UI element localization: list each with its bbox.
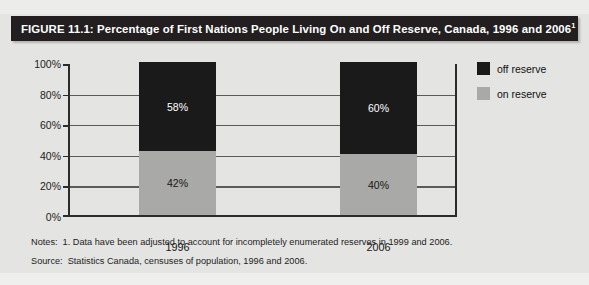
figure-container: FIGURE 11.1: Percentage of First Nations…	[0, 0, 589, 285]
figure-title-prefix: FIGURE 11.1:	[21, 23, 94, 35]
bar-segment-2006-on-reserve[interactable]: 40%	[340, 154, 417, 215]
legend-swatch-off-reserve-icon	[477, 62, 490, 75]
bar-value-label-1996-off-reserve: 58%	[167, 102, 188, 113]
y-tick-label-60: 60%	[40, 119, 61, 131]
y-tick-label-20: 20%	[40, 180, 61, 192]
y-tick-label-80: 80%	[40, 89, 61, 101]
bar-segment-2006-off-reserve[interactable]: 60%	[340, 62, 417, 154]
y-tick-label-100: 100%	[34, 58, 61, 70]
y-tick-mark-40	[63, 156, 68, 158]
y-tick-mark-0	[63, 215, 68, 217]
bar-value-label-1996-on-reserve: 42%	[167, 178, 188, 189]
chart-panel: 100% 80% 60% 40% 20% 0% 58%	[11, 44, 578, 273]
figure-source-text: Statistics Canada, censuses of populatio…	[68, 256, 308, 266]
y-tick-label-40: 40%	[40, 150, 61, 162]
y-tick-label-0: 0%	[46, 211, 61, 223]
x-axis-line	[68, 215, 457, 217]
figure-title-main: Percentage of First Nations People Livin…	[97, 23, 571, 35]
figure-notes-text: 1. Data have been adjusted to account fo…	[63, 237, 453, 247]
figure-notes: Notes:1. Data have been adjusted to acco…	[31, 237, 452, 247]
legend-item-on-reserve[interactable]: on reserve	[477, 87, 577, 100]
figure-source: Source:Statistics Canada, censuses of po…	[31, 256, 307, 266]
plot-right-border	[455, 64, 457, 217]
legend-label-off-reserve: off reserve	[497, 63, 546, 75]
y-axis-labels: 100% 80% 60% 40% 20% 0%	[11, 64, 61, 217]
plot-area: 58% 42% 60% 40% 1996 2006	[68, 64, 457, 217]
figure-title: FIGURE 11.1: Percentage of First Nations…	[21, 21, 575, 35]
page-bottom-band	[0, 273, 589, 285]
legend-item-off-reserve[interactable]: off reserve	[477, 62, 577, 75]
y-axis-line	[68, 64, 70, 217]
legend-label-on-reserve: on reserve	[497, 88, 547, 100]
figure-source-label: Source:	[31, 256, 63, 266]
chart-legend: off reserve on reserve	[477, 62, 577, 112]
y-tick-mark-80	[63, 95, 68, 97]
y-tick-mark-60	[63, 125, 68, 127]
bar-segment-1996-on-reserve[interactable]: 42%	[139, 151, 216, 215]
figure-title-bar: FIGURE 11.1: Percentage of First Nations…	[11, 16, 578, 41]
figure-notes-label: Notes:	[31, 237, 58, 247]
bar-group-1996[interactable]: 58% 42%	[139, 62, 216, 215]
page-top-band	[0, 0, 589, 14]
legend-swatch-on-reserve-icon	[477, 87, 490, 100]
bar-value-label-2006-on-reserve: 40%	[368, 180, 389, 191]
figure-title-footnote-marker: 1	[571, 21, 575, 30]
y-tick-mark-20	[63, 186, 68, 188]
bar-segment-1996-off-reserve[interactable]: 58%	[139, 62, 216, 151]
bar-value-label-2006-off-reserve: 60%	[368, 103, 389, 114]
bar-group-2006[interactable]: 60% 40%	[340, 62, 417, 215]
y-tick-mark-100	[63, 64, 68, 66]
